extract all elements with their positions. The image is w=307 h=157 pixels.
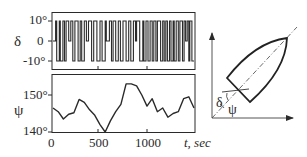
psi-axis-label: ψ [14, 104, 23, 117]
delta-tick-label-10: 10° [29, 13, 47, 26]
delta-axis-label: δ [14, 35, 21, 48]
ship-hull [227, 38, 287, 102]
x-tick-label-500: 500 [89, 136, 109, 149]
diagram-psi-label: ψ [228, 103, 237, 116]
x-axis-label: t, sec [184, 136, 211, 149]
delta-tick-label-0: 0 [37, 34, 44, 47]
ship-centerline [212, 27, 297, 118]
delta-angle-arc [227, 93, 228, 100]
psi-tick-label-150: 150° [23, 88, 48, 101]
delta-series-line [53, 21, 194, 61]
psi-series-line [53, 84, 194, 132]
delta-tick-label-minus10: -10° [23, 54, 46, 67]
diagram-delta-label: δ [216, 96, 223, 109]
rudder-line [222, 89, 249, 92]
x-tick-label-0: 0 [48, 136, 55, 149]
psi-tick-label-140: 140° [23, 124, 48, 137]
psi-plot-frame [52, 75, 195, 133]
x-tick-label-1000: 1000 [135, 136, 161, 149]
ship-diagram [212, 27, 297, 118]
